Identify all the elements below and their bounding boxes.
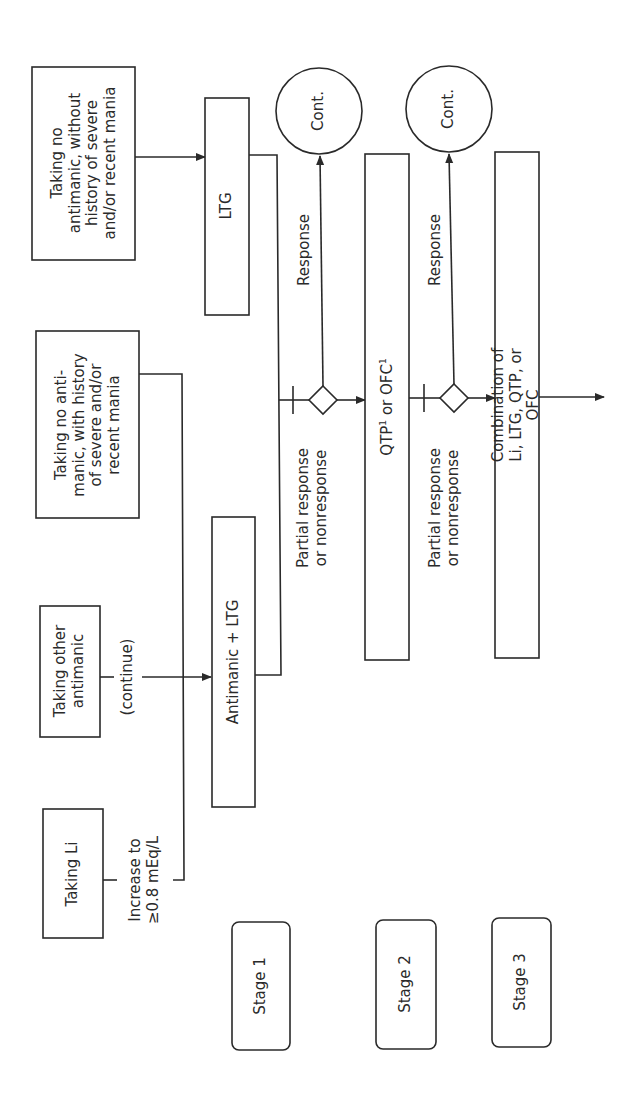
connector-mania-history [139,374,184,880]
input-label-no-antimanic-without-history: Taking no antimanic, without history of … [49,87,120,240]
stage-label-1: Stage 1 [252,957,270,1015]
edge-label-increase: Increase to ≥0.8 mEq/L [127,836,162,924]
treatment-label-ltg: LTG [218,192,236,219]
footnote-2: 1 [378,358,388,364]
edge-label-response-1: Response [296,214,314,286]
treatment-label-stage2: QTP1 or OFC1 [378,358,397,455]
input-label-no-antimanic-with-history: Taking no anti- manic, with history of s… [53,353,124,496]
ofc-text: or OFC [378,364,396,420]
edge-label-partial-1: Partial response or nonresponse [295,448,330,568]
input-label-taking-li: Taking Li [64,841,82,906]
arrow-response-1 [320,156,323,386]
treatment-label-stage3: Combination of Li, LTG, QTP, or OFC [490,343,543,467]
stage-label-3: Stage 3 [512,953,530,1011]
edge-label-partial-2: Partial response or nonresponse [427,448,462,568]
stage-label-2: Stage 2 [397,955,415,1013]
continue-label-2: Cont. [440,89,458,129]
qtp-text: QTP [378,426,396,456]
decision-diamond-1 [309,386,337,414]
edge-label-continue: (continue) [119,639,137,716]
input-label-other-antimanic: Taking other antimanic [52,625,87,717]
treatment-label-antimanic-ltg: Antimanic + LTG [225,600,243,725]
continue-label-1: Cont. [310,91,328,131]
footnote-1: 1 [378,420,388,426]
edge-label-response-2: Response [427,214,445,286]
arrow-response-2 [449,154,454,384]
decision-diamond-2 [440,384,468,412]
